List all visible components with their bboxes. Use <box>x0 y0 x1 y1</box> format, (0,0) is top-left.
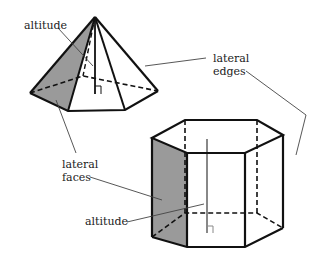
prism-altitude-label: altitude <box>85 216 128 228</box>
hexagonal-prism <box>152 120 283 247</box>
lateral-faces-label-line2: faces <box>62 172 91 184</box>
prism-shaded-face <box>152 138 187 247</box>
geometry-drawing <box>0 0 319 264</box>
lateral-faces-label-line1: lateral <box>62 159 98 171</box>
lateral-edges-label-line2: edges <box>213 66 246 78</box>
diagram: altitude lateral edges lateral faces alt… <box>0 0 319 264</box>
lateral-edges-label-line1: lateral <box>213 53 249 65</box>
pyramid-altitude-label: altitude <box>24 20 67 32</box>
